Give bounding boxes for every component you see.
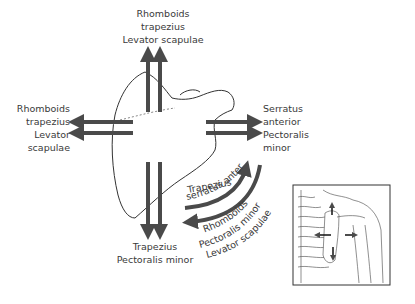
label-line: minor	[263, 141, 333, 154]
label-protractors: Serratus anterior Pectoralis minor	[263, 102, 333, 154]
label-elevators: Rhomboids trapezius Levator scapulae	[118, 7, 208, 46]
label-line: Rhomboids	[8, 102, 70, 115]
label-line: Serratus	[263, 102, 333, 115]
label-line: Pectoralis minor	[110, 253, 200, 266]
label-line: Trapezius	[110, 240, 200, 253]
label-retractors: Rhomboids trapezius Levator scapulae	[8, 102, 70, 154]
scapula-outline	[112, 72, 234, 218]
protraction-arrows	[206, 122, 255, 133]
label-line: Levator scapulae	[118, 33, 208, 46]
label-line: Pectoralis	[263, 128, 333, 141]
label-line: trapezius	[118, 20, 208, 33]
label-depressors: Trapezius Pectoralis minor	[110, 240, 200, 266]
inset-shoulder-figure	[293, 185, 390, 285]
retraction-arrows	[76, 122, 133, 133]
label-line: Rhomboids	[118, 7, 208, 20]
elevation-arrows	[148, 54, 160, 112]
label-line: trapezius	[8, 115, 70, 128]
label-line: scapulae	[8, 141, 70, 154]
depression-arrows	[148, 162, 160, 232]
label-line: anterior	[263, 115, 333, 128]
label-line: Levator	[8, 128, 70, 141]
